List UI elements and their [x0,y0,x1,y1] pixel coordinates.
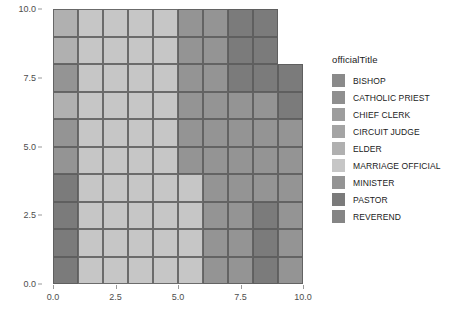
heatmap-cell [178,37,203,65]
heatmap-cell [153,174,178,202]
heatmap-cell [153,229,178,257]
heatmap-cell [153,92,178,120]
heatmap-cell [103,9,128,37]
heatmap-cell [178,257,203,285]
heatmap-cell [153,202,178,230]
heatmap-cell [103,229,128,257]
legend-items: BISHOPCATHOLIC PRIESTCHIEF CLERKCIRCUIT … [332,72,458,225]
x-axis-tick-label: 5.0 [172,292,185,302]
heatmap-cell [53,229,78,257]
heatmap-cell [278,147,303,175]
x-axis-tick-mark [53,285,54,289]
heatmap-cell [153,119,178,147]
heatmap-cell [103,119,128,147]
heatmap-cell [53,9,78,37]
heatmap-cell [153,9,178,37]
legend-item-label: MARRIAGE OFFICIAL [353,161,441,171]
heatmap-cell [178,202,203,230]
legend-item[interactable]: PASTOR [332,191,458,208]
heatmap-cell [253,229,278,257]
heatmap-cell [178,64,203,92]
heatmap-cell [128,147,153,175]
heatmap-cell [153,147,178,175]
heatmap-cell [228,229,253,257]
heatmap-cell [228,37,253,65]
legend-item-label: REVEREND [353,212,401,222]
legend-item[interactable]: BISHOP [332,72,458,89]
heatmap-cell [128,92,153,120]
heatmap-cell [53,147,78,175]
heatmap-cell [278,257,303,285]
x-axis-tick-mark [303,285,304,289]
heatmap-cell [253,37,278,65]
heatmap-cell [128,229,153,257]
heatmap-cell [103,37,128,65]
heatmap-cell [178,147,203,175]
heatmap-cell [203,119,228,147]
heatmap-cell [53,257,78,285]
legend-swatch-icon [332,142,345,155]
legend-item[interactable]: CIRCUIT JUDGE [332,123,458,140]
legend-item[interactable]: MARRIAGE OFFICIAL [332,157,458,174]
legend-item[interactable]: CHIEF CLERK [332,106,458,123]
legend-swatch-icon [332,74,345,87]
heatmap-cell [178,119,203,147]
heatmap-cell [78,9,103,37]
heatmap-cell [78,119,103,147]
heatmap-cell [53,64,78,92]
legend-item-label: MINISTER [353,178,394,188]
legend-item[interactable]: ELDER [332,140,458,157]
heatmap-cell [78,174,103,202]
heatmap-cell [128,257,153,285]
heatmap-cell [228,9,253,37]
legend-swatch-icon [332,176,345,189]
heatmap-cell [253,147,278,175]
legend-item[interactable]: CATHOLIC PRIEST [332,89,458,106]
heatmap-cell [78,37,103,65]
heatmap-cell [178,174,203,202]
heatmap-cell [103,174,128,202]
legend-item-label: ELDER [353,144,382,154]
legend-item-label: BISHOP [353,76,386,86]
heatmap-cell [178,92,203,120]
heatmap-cell [53,119,78,147]
heatmap-cell [278,174,303,202]
legend-item-label: PASTOR [353,195,388,205]
heatmap-cell [228,119,253,147]
heatmap-cell [253,119,278,147]
legend-item[interactable]: REVEREND [332,208,458,225]
heatmap-cell [178,9,203,37]
heatmap-cell [203,202,228,230]
heatmap-cell [128,9,153,37]
x-axis-tick-label: 0.0 [47,292,60,302]
legend-item-label: CHIEF CLERK [353,110,410,120]
legend-swatch-icon [332,159,345,172]
heatmap-cell [253,202,278,230]
x-axis-tick-mark [178,285,179,289]
heatmap-cell [253,92,278,120]
legend-title: officialTitle [332,54,458,65]
x-axis-tick-label: 7.5 [234,292,247,302]
legend-swatch-icon [332,210,345,223]
heatmap-cell [128,174,153,202]
legend-item-label: CATHOLIC PRIEST [353,93,430,103]
legend-item[interactable]: MINISTER [332,174,458,191]
x-axis-tick-label: 10.0 [294,292,312,302]
heatmap-cell [103,147,128,175]
heatmap-cell [128,119,153,147]
heatmap-cell [203,174,228,202]
heatmap-cell [278,64,303,92]
heatmap-cell [228,174,253,202]
legend-swatch-icon [332,125,345,138]
heatmap-cell [53,174,78,202]
heatmap-cell [78,64,103,92]
heatmap-cell [128,37,153,65]
heatmap-cell [103,257,128,285]
heatmap-cell [228,202,253,230]
heatmap-cell [153,257,178,285]
legend: officialTitle BISHOPCATHOLIC PRIESTCHIEF… [332,54,458,225]
heatmap-cell [53,92,78,120]
x-axis-tick-label: 2.5 [109,292,122,302]
heatmap-cell [203,37,228,65]
heatmap-cell [78,257,103,285]
